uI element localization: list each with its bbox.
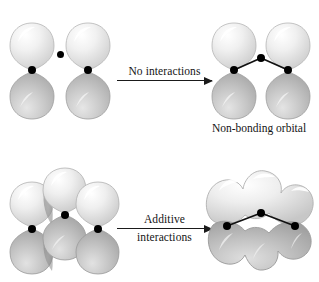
lone-electron-dot [57, 51, 64, 58]
nucleus-dot [61, 211, 69, 219]
nucleus-dot [28, 66, 36, 74]
nucleus-dot [230, 66, 238, 74]
nucleus-dot [94, 225, 102, 233]
arrow-label-below: interactions [117, 231, 212, 243]
arrow-shaft [117, 228, 212, 229]
bottom-row: Additive interactions [0, 141, 319, 282]
nucleus-dot [284, 66, 292, 74]
bond-vertex-dot [257, 209, 265, 217]
nucleus-dot [28, 225, 36, 233]
fused-bonding-molecular-orbital [205, 163, 317, 278]
arrow-label-above: Additive [117, 213, 212, 225]
non-bonding-orbital-set [210, 22, 314, 122]
two-isolated-p-orbitals [8, 22, 116, 122]
no-interactions-arrow: No interactions [117, 80, 212, 81]
bond-vertex-dot [257, 54, 265, 62]
additive-interactions-arrow: Additive interactions [117, 228, 212, 229]
arrow-shaft [117, 80, 212, 81]
three-overlapping-p-orbitals [8, 167, 123, 277]
nucleus-dot [291, 222, 299, 230]
nucleus-dot [84, 66, 92, 74]
non-bonding-orbital-caption: Non-bonding orbital [200, 122, 318, 135]
nucleus-dot [223, 222, 231, 230]
top-row: No interactions [0, 0, 319, 141]
arrow-label-above: No interactions [117, 65, 212, 77]
orbital-interaction-figure: No interactions [0, 0, 319, 282]
